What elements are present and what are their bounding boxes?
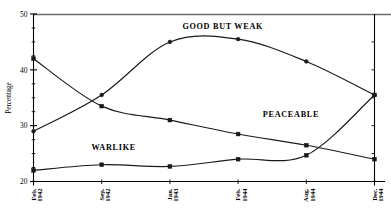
series-annotation-warlike: WARLIKE [91,143,135,152]
series-curve-warlike [34,95,375,170]
y-tick-label: 50 [20,10,28,19]
chart-container: 20304050 Feb.1942Sep.1942Jan.1943Feb.194… [0,0,391,214]
data-point-peaceable-0 [32,57,36,61]
data-point-good-but-weak-4 [304,60,308,64]
y-axis-tick-labels: 20304050 [20,10,28,187]
series-annotations: GOOD BUT WEAKPEACEABLEWARLIKE [91,22,319,152]
data-point-good-but-weak-2 [168,40,172,44]
survey-line-chart: 20304050 Feb.1942Sep.1942Jan.1943Feb.194… [0,0,391,214]
y-axis-ticks [30,14,375,182]
series-annotation-good-but-weak: GOOD BUT WEAK [182,22,263,31]
data-point-peaceable-5 [373,157,377,161]
y-axis-title-group: Percentage [5,82,13,114]
data-point-warlike-4 [304,153,308,157]
series-curves [34,36,375,171]
data-point-warlike-5 [373,93,377,97]
series-markers [32,37,377,172]
data-point-good-but-weak-3 [236,37,240,41]
y-tick-label: 20 [20,177,28,186]
series-curve-good-but-weak [34,36,375,131]
data-point-peaceable-2 [168,118,172,122]
x-tick-label-year: 1944 [377,188,384,202]
data-point-warlike-1 [100,163,104,167]
series-annotation-peaceable: PEACEABLE [263,110,319,119]
data-point-warlike-3 [236,157,240,161]
x-tick-label-group: Feb.1942 [30,188,43,202]
x-tick-label-group: Dec.1944 [371,188,384,202]
data-point-good-but-weak-0 [32,129,36,133]
x-tick-label-year: 1943 [173,188,180,202]
y-tick-label: 40 [20,66,28,75]
data-point-peaceable-4 [304,143,308,147]
x-tick-label-year: 1944 [309,188,316,202]
y-tick-label: 30 [20,121,28,130]
x-tick-label-year: 1944 [241,188,248,202]
x-tick-label-group: Feb.1944 [234,188,247,202]
data-point-good-but-weak-1 [100,93,104,97]
y-axis-title: Percentage [5,82,13,114]
data-point-peaceable-1 [100,104,104,108]
x-tick-label-year: 1942 [104,188,111,202]
data-point-warlike-2 [168,165,172,169]
data-point-warlike-0 [32,168,36,172]
x-tick-label-group: Sep.1942 [98,188,111,202]
x-tick-label-group: Jan.1943 [166,188,179,202]
x-axis-tick-labels: Feb.1942Sep.1942Jan.1943Feb.1944Aug.1944… [30,188,384,202]
data-point-peaceable-3 [236,132,240,136]
x-tick-label-group: Aug.1944 [303,188,316,202]
x-tick-label-year: 1942 [36,188,43,202]
